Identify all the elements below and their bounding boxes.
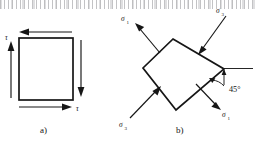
- angle-label: 45°: [229, 85, 240, 94]
- principal-tension-arrow-bottom-right: [196, 84, 221, 110]
- left-shear-arrow: [8, 41, 15, 98]
- right-shear-arrow: [78, 40, 85, 97]
- panel-a-group: τ τ a): [5, 29, 84, 135]
- stress-diagram: τ τ a): [0, 0, 256, 141]
- shear-element-square: [19, 38, 73, 100]
- panel-b-group: σ 1 σ 3 σ 3 σ 1 45° b): [119, 6, 253, 135]
- stress-label-bottom-right: σ 1: [222, 110, 231, 121]
- stress-label-top-right: σ 3: [216, 6, 225, 17]
- svg-text:σ: σ: [216, 6, 220, 15]
- svg-text:3: 3: [125, 126, 128, 131]
- panel-b-caption: b): [176, 125, 184, 135]
- top-shear-arrow: [19, 29, 72, 36]
- principal-compression-arrow-top-right: [198, 16, 226, 55]
- shear-label-left: τ: [5, 33, 8, 42]
- svg-text:1: 1: [127, 20, 130, 25]
- figure-container: τ τ a): [0, 0, 256, 141]
- svg-text:σ: σ: [222, 110, 226, 119]
- principal-element-diamond: [143, 39, 224, 110]
- principal-compression-arrow-bottom-left: [130, 86, 161, 118]
- shear-label-bottom: τ: [76, 104, 79, 113]
- angle-arc: [212, 80, 224, 86]
- svg-text:1: 1: [228, 116, 231, 121]
- svg-text:σ: σ: [119, 120, 123, 129]
- svg-text:3: 3: [222, 12, 225, 17]
- stress-label-top-left: σ 1: [121, 14, 130, 25]
- svg-text:σ: σ: [121, 14, 125, 23]
- stress-label-bottom-left: σ 3: [119, 120, 128, 131]
- principal-tension-arrow-top-left: [135, 23, 160, 53]
- bottom-shear-arrow: [19, 104, 72, 111]
- panel-a-caption: a): [40, 125, 47, 135]
